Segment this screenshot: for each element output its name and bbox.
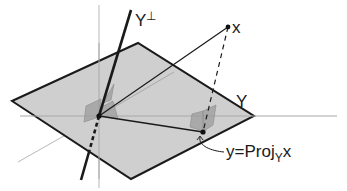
projection-diagram: Y⊥ x Y y=ProjYx [0, 0, 347, 191]
subspace-plane-Y [12, 43, 254, 179]
label-subspace-Y: Y [236, 92, 247, 111]
label-projection: y=ProjYx [226, 142, 292, 165]
yperp-solid-lower [81, 152, 89, 180]
label-x: x [232, 18, 241, 37]
origin-point [96, 113, 101, 118]
point-y [200, 129, 205, 134]
label-y-perp: Y⊥ [135, 9, 156, 30]
point-x [226, 25, 231, 30]
